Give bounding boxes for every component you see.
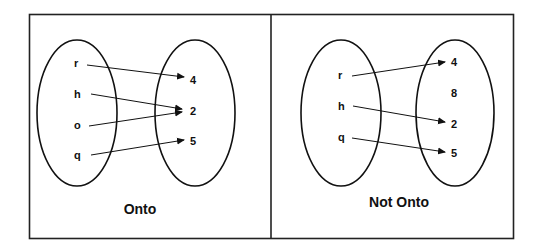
- mapping-arrow: [353, 106, 445, 122]
- domain-element: q: [338, 131, 345, 143]
- codomain-element: 5: [190, 135, 196, 147]
- mapping-arrow: [89, 112, 182, 126]
- mapping-arrow: [352, 138, 445, 152]
- mapping-arrow: [352, 62, 445, 76]
- panel-caption: Not Onto: [369, 194, 429, 210]
- domain-element: q: [74, 149, 81, 161]
- mapping-arrow: [87, 65, 184, 77]
- mapping-arrow: [91, 94, 182, 109]
- codomain-element: 4: [451, 56, 458, 68]
- domain-element: r: [74, 57, 79, 69]
- panel-not-onto: r h q 4 8 2 5 Not Onto: [301, 40, 494, 210]
- domain-element: h: [74, 88, 81, 100]
- onto-vs-not-onto-diagram: r h o q 4 2 5 Onto r h q 4 8 2 5 Not Ont…: [0, 0, 537, 249]
- domain-element: r: [338, 69, 343, 81]
- codomain-element: 5: [451, 147, 457, 159]
- domain-element: o: [74, 119, 81, 131]
- mapping-arrow: [91, 140, 184, 155]
- codomain-element: 8: [451, 87, 457, 99]
- domain-element: h: [338, 100, 345, 112]
- codomain-element: 2: [190, 105, 196, 117]
- domain-set-ellipse: [301, 40, 381, 186]
- panel-onto: r h o q 4 2 5 Onto: [37, 40, 235, 217]
- codomain-element: 2: [451, 118, 457, 130]
- codomain-element: 4: [190, 74, 197, 86]
- panel-caption: Onto: [124, 201, 157, 217]
